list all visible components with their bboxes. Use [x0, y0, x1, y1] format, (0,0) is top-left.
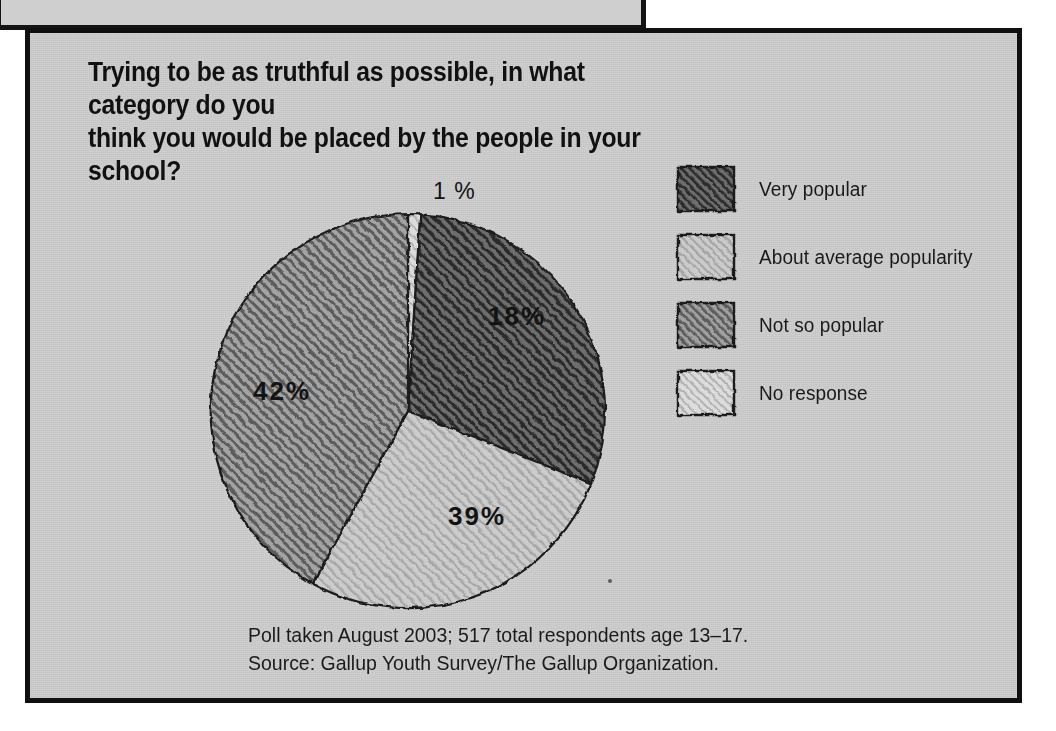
pie-label-not-so-popular: 42%: [253, 376, 311, 407]
chart-page: Trying to be as truthful as possible, in…: [0, 0, 1056, 731]
chart-panel: Trying to be as truthful as possible, in…: [25, 28, 1022, 703]
legend-item-about-average: About average popularity: [675, 223, 1005, 291]
legend-label-very-popular: Very popular: [759, 178, 867, 201]
about-average-swatch-icon: [675, 232, 737, 282]
chart-footnote: Poll taken August 2003; 517 total respon…: [248, 621, 748, 677]
legend-label-not-so-popular: Not so popular: [759, 314, 884, 337]
pie-label-very-popular: 18%: [488, 301, 546, 332]
very-popular-swatch-icon: [675, 164, 737, 214]
footnote-line-2: Source: Gallup Youth Survey/The Gallup O…: [248, 649, 748, 677]
legend-label-no-response: No response: [759, 382, 868, 405]
no-response-swatch-icon: [675, 368, 737, 418]
page-title: Trying to be as truthful as possible, in…: [88, 55, 664, 187]
not-so-popular-swatch-icon: [675, 300, 737, 350]
pie-chart: 1 % 18% 39% 42%: [208, 211, 638, 611]
legend-item-no-response: No response: [675, 359, 1005, 427]
legend-item-not-so-popular: Not so popular: [675, 291, 1005, 359]
chart-legend: Very popular About average popularity No…: [675, 155, 1005, 427]
pie-label-no-response: 1 %: [433, 178, 476, 205]
print-speck: [608, 579, 612, 583]
title-line-1: Trying to be as truthful as possible, in…: [88, 55, 664, 121]
page-top-margin: [646, 0, 1056, 24]
pie-slices: [211, 214, 605, 608]
pie-chart-svg: [208, 211, 638, 611]
footnote-line-1: Poll taken August 2003; 517 total respon…: [248, 621, 748, 649]
title-line-2: think you would be placed by the people …: [88, 121, 664, 187]
adjacent-panel-fragment: [0, 0, 646, 30]
legend-label-about-average: About average popularity: [759, 246, 973, 269]
legend-item-very-popular: Very popular: [675, 155, 1005, 223]
pie-label-about-average: 39%: [448, 501, 506, 532]
